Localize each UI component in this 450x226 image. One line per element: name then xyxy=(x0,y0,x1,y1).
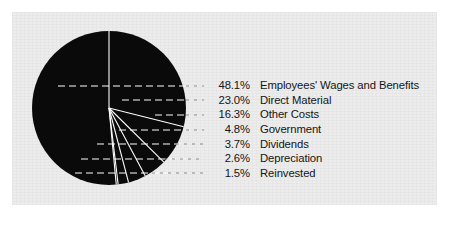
legend-row: 16.3% Other Costs xyxy=(208,107,448,122)
legend-percent: 48.1% xyxy=(208,78,250,93)
legend-percent: 16.3% xyxy=(208,107,250,122)
legend-percent: 1.5% xyxy=(208,166,250,181)
legend-row: 23.0% Direct Material xyxy=(208,93,448,108)
legend-percent: 23.0% xyxy=(208,93,250,108)
legend-row: 3.7% Dividends xyxy=(208,137,448,152)
legend-label: Depreciation xyxy=(260,151,322,166)
legend-label: Reinvested xyxy=(260,166,316,181)
legend-label: Direct Material xyxy=(260,93,331,108)
legend-label: Other Costs xyxy=(260,107,319,122)
pie-legend: 48.1% Employees' Wages and Benefits 23.0… xyxy=(208,78,448,181)
legend-percent: 4.8% xyxy=(208,122,250,137)
legend-label: Employees' Wages and Benefits xyxy=(260,78,419,93)
legend-percent: 2.6% xyxy=(208,151,250,166)
legend-percent: 3.7% xyxy=(208,137,250,152)
legend-label: Government xyxy=(260,122,321,137)
legend-row: 48.1% Employees' Wages and Benefits xyxy=(208,78,448,93)
legend-row: 1.5% Reinvested xyxy=(208,166,448,181)
legend-row: 4.8% Government xyxy=(208,122,448,137)
legend-label: Dividends xyxy=(260,137,309,152)
figure-panel: 48.1% Employees' Wages and Benefits 23.0… xyxy=(12,12,437,205)
legend-row: 2.6% Depreciation xyxy=(208,151,448,166)
